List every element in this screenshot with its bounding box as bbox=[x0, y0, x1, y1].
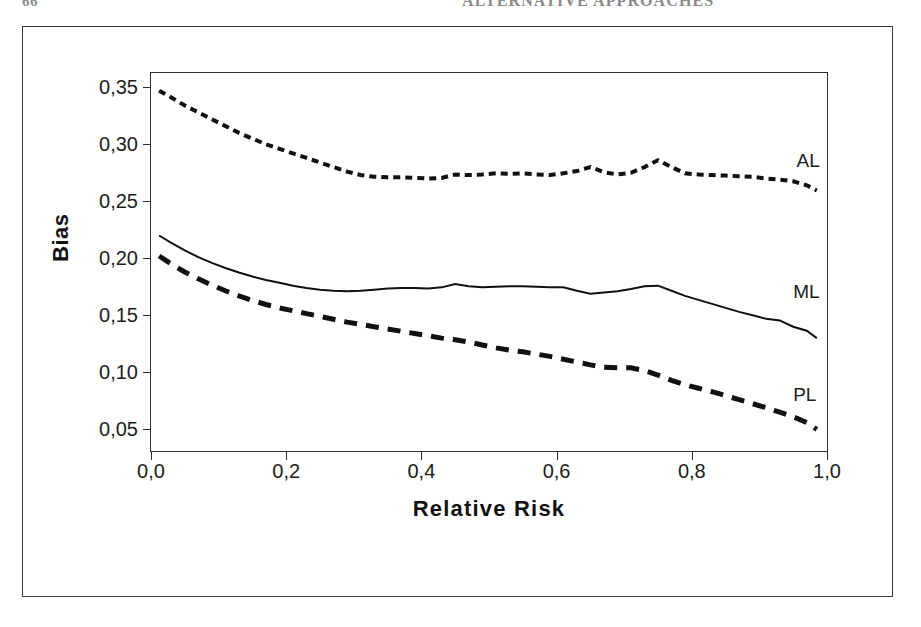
x-tick-mark bbox=[557, 452, 558, 460]
y-tick-mark bbox=[143, 201, 151, 202]
y-tick-mark bbox=[143, 429, 151, 430]
series-line-ml bbox=[159, 235, 817, 338]
series-line-pl bbox=[159, 256, 817, 429]
x-tick-label: 0,4 bbox=[386, 460, 456, 483]
y-tick-mark bbox=[143, 372, 151, 373]
x-tick-label: 0,2 bbox=[251, 460, 321, 483]
x-tick-mark bbox=[421, 452, 422, 460]
series-label-al: AL bbox=[797, 150, 820, 172]
x-tick-label: 0,8 bbox=[657, 460, 727, 483]
y-tick-mark bbox=[143, 144, 151, 145]
plot-curves bbox=[150, 72, 828, 452]
x-tick-label: 0,6 bbox=[522, 460, 592, 483]
x-axis-title: Relative Risk bbox=[150, 496, 828, 522]
x-tick-label: 0,0 bbox=[116, 460, 186, 483]
series-label-ml: ML bbox=[793, 281, 819, 303]
y-axis-title-host: Bias bbox=[54, 0, 84, 627]
x-tick-mark bbox=[827, 452, 828, 460]
x-tick-mark bbox=[692, 452, 693, 460]
x-tick-mark bbox=[286, 452, 287, 460]
x-tick-label: 1,0 bbox=[792, 460, 862, 483]
x-tick-mark bbox=[151, 452, 152, 460]
y-tick-mark bbox=[143, 258, 151, 259]
y-tick-mark bbox=[143, 315, 151, 316]
y-axis-title: Bias bbox=[48, 214, 74, 262]
series-label-pl: PL bbox=[793, 384, 816, 406]
bias-vs-relative-risk-chart: 0,050,100,150,200,250,300,35 Bias Relati… bbox=[0, 0, 921, 627]
y-tick-mark bbox=[143, 87, 151, 88]
series-line-al bbox=[159, 91, 817, 191]
